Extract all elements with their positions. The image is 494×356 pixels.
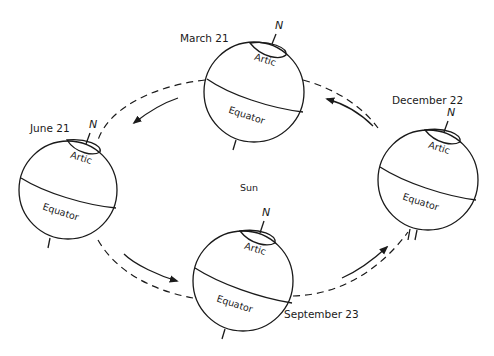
date-label-december: December 22 — [392, 94, 463, 106]
equator-label: Equator — [41, 201, 80, 223]
equator-label: Equator — [401, 191, 440, 213]
arctic-label: Artic — [243, 240, 267, 257]
date-label-june: June 21 — [29, 122, 70, 134]
arctic-label: Artic — [427, 139, 451, 156]
north-label: N — [275, 19, 283, 32]
north-label: N — [262, 206, 270, 219]
globe-december: N Artic Equator — [378, 106, 478, 240]
date-label-march: March 21 — [180, 32, 229, 44]
earth-orbit-diagram: N Artic Equator March 21 N Artic Equator… — [0, 0, 494, 356]
arrow-december-to-march — [327, 99, 373, 126]
north-label: N — [447, 106, 455, 119]
equator-label: Equator — [215, 293, 254, 315]
date-label-september: September 23 — [284, 308, 359, 320]
arctic-label: Artic — [253, 51, 277, 68]
arrow-march-to-june — [134, 98, 178, 123]
globe-june: N Artic Equator — [19, 118, 117, 248]
north-label: N — [89, 118, 97, 131]
sun-label: Sun — [240, 182, 258, 193]
globe-september: N Artic Equator — [193, 206, 293, 339]
equator-label: Equator — [227, 104, 266, 126]
arctic-label: Artic — [69, 149, 93, 166]
arrow-june-to-september — [124, 254, 177, 281]
